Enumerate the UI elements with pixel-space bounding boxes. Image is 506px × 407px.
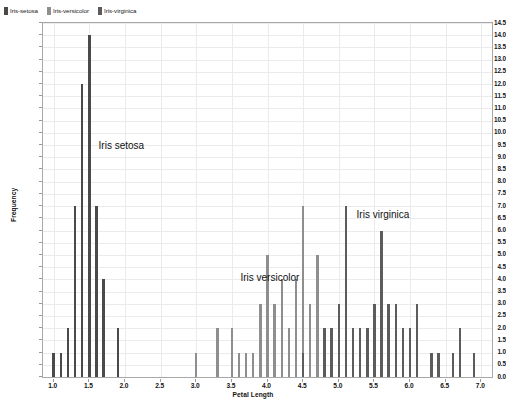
x-axis-tick-mark [88, 379, 89, 382]
x-axis-tick-label: 3.5 [211, 382, 251, 390]
x-axis-tick-mark [373, 379, 374, 382]
x-axis-tick-label: 4.0 [247, 382, 287, 390]
x-axis-tick-mark [480, 379, 481, 382]
x-axis-tick-label: 5.5 [353, 382, 393, 390]
legend-item-iris-setosa[interactable]: Iris-setosa [4, 7, 38, 15]
legend-label: Iris-versicolor [53, 7, 89, 15]
x-axis-tick-label: 6.0 [389, 382, 429, 390]
x-axis-tick-mark [267, 379, 268, 382]
x-axis-tick-mark [53, 379, 54, 382]
x-axis-tick-label: 4.5 [282, 382, 322, 390]
x-axis-tick-label: 2.5 [140, 382, 180, 390]
x-axis-tick-label: 2.0 [104, 382, 144, 390]
x-axis-tick-label: 7.0 [460, 382, 500, 390]
x-axis-tick-mark [409, 379, 410, 382]
x-axis-tick-label: 1.5 [68, 382, 108, 390]
legend-label: Iris-setosa [10, 7, 38, 15]
x-axis-tick-mark [124, 379, 125, 382]
gridline-horizontal [43, 377, 492, 378]
x-axis-tick-label: 1.0 [33, 382, 73, 390]
x-axis-tick-label: 5.0 [318, 382, 358, 390]
plot-annotations: Iris setosaIris versicolorIris virginica [43, 23, 492, 377]
legend-swatch-icon [4, 7, 8, 15]
legend-item-iris-versicolor[interactable]: Iris-versicolor [47, 7, 89, 15]
chart-legend: Iris-setosa Iris-versicolor Iris-virgini… [4, 5, 136, 16]
legend-item-iris-virginica[interactable]: Iris-virginica [98, 7, 136, 15]
x-axis-tick-mark [338, 379, 339, 382]
legend-swatch-icon [47, 7, 51, 15]
x-axis-tick-label: 3.0 [175, 382, 215, 390]
x-axis-tick-mark [302, 379, 303, 382]
plot-area: Iris setosaIris versicolorIris virginica [42, 22, 493, 378]
x-axis-tick-mark [445, 379, 446, 382]
x-axis-tick-mark [160, 379, 161, 382]
series-annotation: Iris setosa [99, 140, 145, 151]
legend-label: Iris-virginica [104, 7, 136, 15]
legend-swatch-icon [98, 7, 102, 15]
x-axis-tick-mark [195, 379, 196, 382]
y-axis-title: Frequency [10, 188, 17, 222]
iris-petal-length-histogram: Iris-setosa Iris-versicolor Iris-virgini… [0, 0, 506, 407]
x-axis-tick-mark [231, 379, 232, 382]
series-annotation: Iris versicolor [240, 272, 299, 283]
x-axis-title: Petal Length [0, 391, 506, 398]
x-axis-tick-label: 6.5 [425, 382, 465, 390]
series-annotation: Iris virginica [357, 209, 410, 220]
